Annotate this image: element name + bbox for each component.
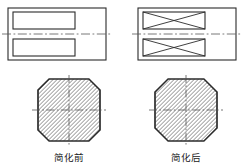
engineering-drawing-figure: 简化前 简化后 xyxy=(0,0,250,168)
figure-background xyxy=(0,0,250,168)
drawing-canvas: 简化前 简化后 xyxy=(0,0,250,168)
caption-before: 简化前 xyxy=(54,152,84,163)
caption-after: 简化后 xyxy=(171,152,201,163)
